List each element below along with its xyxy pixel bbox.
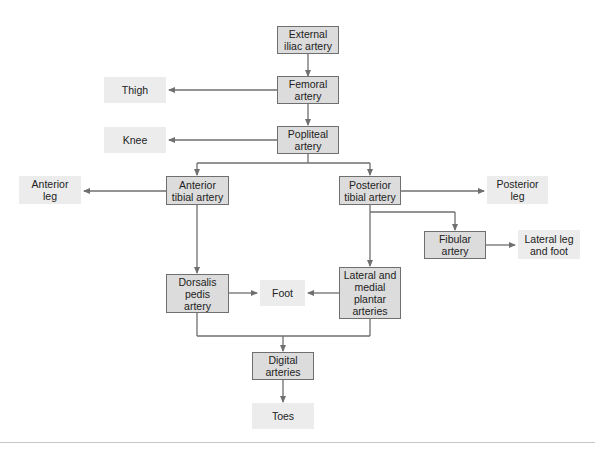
node-popliteal-artery: Popliteal artery bbox=[277, 126, 339, 154]
node-anterior-leg: Anterior leg bbox=[19, 176, 81, 204]
node-toes: Toes bbox=[252, 403, 314, 429]
node-external-iliac-artery: External iliac artery bbox=[277, 26, 339, 54]
node-femoral-artery: Femoral artery bbox=[277, 76, 339, 104]
node-lateral-leg-and-foot: Lateral leg and foot bbox=[518, 230, 580, 259]
bottom-divider bbox=[0, 442, 595, 443]
node-plantar-arteries: Lateral and medial plantar arteries bbox=[339, 267, 401, 319]
node-posterior-tibial-artery: Posterior tibial artery bbox=[339, 176, 401, 205]
connector-lines bbox=[0, 0, 595, 450]
node-knee: Knee bbox=[104, 127, 166, 153]
node-digital-arteries: Digital arteries bbox=[252, 352, 314, 380]
node-foot: Foot bbox=[260, 280, 305, 306]
node-thigh: Thigh bbox=[104, 77, 166, 103]
node-posterior-leg: Posterior leg bbox=[487, 176, 548, 204]
node-anterior-tibial-artery: Anterior tibial artery bbox=[166, 176, 229, 205]
node-dorsalis-pedis-artery: Dorsalis pedis artery bbox=[166, 274, 229, 313]
node-fibular-artery: Fibular artery bbox=[424, 231, 486, 259]
